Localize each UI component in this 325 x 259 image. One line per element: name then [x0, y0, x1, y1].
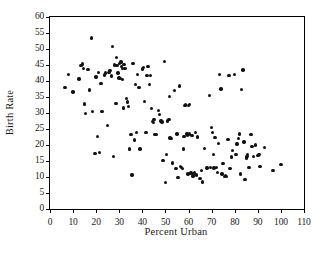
data-point [239, 172, 242, 175]
y-axis-tick [46, 17, 50, 18]
y-axis-tick-label: 55 [35, 26, 44, 39]
x-axis-title-text: Percent Urban [145, 226, 208, 237]
x-axis-tick [165, 209, 166, 213]
data-point [240, 88, 243, 91]
data-point [234, 153, 237, 156]
y-axis-tick [46, 97, 50, 98]
data-point [218, 73, 221, 76]
data-point [211, 131, 214, 134]
y-axis-tick-label: 10 [35, 170, 44, 183]
data-point [203, 147, 206, 150]
data-point [170, 137, 173, 140]
y-axis-tick-label: 35 [35, 90, 44, 103]
data-point [271, 169, 274, 172]
data-point [163, 60, 166, 63]
plot-area: 0510152025303540455055600102030405060708… [49, 16, 305, 210]
x-axis-title: Percent Urban [49, 226, 303, 237]
data-point [81, 62, 84, 65]
data-point [173, 89, 176, 92]
x-axis-tick [304, 209, 305, 213]
x-axis-tick [258, 209, 259, 213]
data-point [196, 135, 199, 138]
data-point [155, 133, 158, 136]
x-axis-tick [50, 209, 51, 213]
y-axis-title: Birth Rate [2, 0, 18, 224]
data-point [77, 77, 80, 80]
data-point [230, 155, 233, 158]
data-point [90, 36, 93, 39]
data-point [88, 88, 91, 91]
data-point [249, 133, 252, 136]
data-point [188, 103, 191, 106]
data-point [238, 132, 241, 135]
data-point [93, 152, 96, 155]
data-point [143, 100, 146, 103]
y-axis-tick [46, 177, 50, 178]
data-point [122, 63, 125, 66]
data-point [252, 155, 255, 158]
y-axis-tick [46, 145, 50, 146]
data-point [142, 66, 145, 69]
data-point [175, 132, 178, 135]
data-point [152, 118, 155, 121]
y-axis-tick-label: 30 [35, 106, 44, 119]
x-axis-tick [235, 209, 236, 213]
data-point [148, 83, 151, 86]
data-point [190, 134, 193, 137]
data-point [200, 169, 203, 172]
data-point [174, 167, 177, 170]
data-point [248, 166, 251, 169]
y-axis-tick-label: 25 [35, 122, 44, 135]
data-point [246, 153, 249, 156]
y-axis-tick [46, 193, 50, 194]
data-point [96, 135, 99, 138]
data-point [97, 71, 100, 74]
data-point [219, 87, 222, 90]
data-point [194, 131, 197, 134]
data-point [131, 62, 134, 65]
y-axis-tick [46, 33, 50, 34]
data-point [182, 147, 185, 150]
data-point [152, 121, 155, 124]
x-axis-tick [119, 209, 120, 213]
data-point [130, 173, 133, 176]
data-point [215, 166, 218, 169]
data-point [98, 151, 101, 154]
data-point [122, 106, 125, 109]
data-point [129, 133, 132, 136]
data-point [146, 65, 149, 68]
data-point [83, 102, 86, 105]
data-point [94, 75, 97, 78]
data-point [231, 149, 234, 152]
data-point [235, 142, 238, 145]
y-axis-tick-label: 15 [35, 154, 44, 167]
data-point [116, 71, 119, 74]
data-point [82, 67, 85, 70]
y-axis-tick-label: 20 [35, 138, 44, 151]
data-point [258, 165, 261, 168]
data-point [242, 140, 245, 143]
data-point [112, 155, 115, 158]
data-point [208, 94, 211, 97]
data-point [201, 180, 204, 183]
y-axis-tick-label: 50 [35, 42, 44, 55]
data-point [160, 120, 163, 123]
y-axis-title-text: Birth Rate [5, 89, 16, 134]
data-point [84, 112, 87, 115]
data-points-layer [50, 17, 304, 209]
data-point [279, 163, 282, 166]
data-point [227, 74, 230, 77]
x-axis-tick [96, 209, 97, 213]
data-point [178, 84, 181, 87]
data-point [233, 73, 236, 76]
data-point [216, 171, 219, 174]
data-point [167, 118, 170, 121]
y-axis-tick-label: 0 [39, 202, 44, 215]
y-axis-tick [46, 161, 50, 162]
data-point [115, 56, 118, 59]
data-point [150, 107, 153, 110]
data-point [128, 147, 131, 150]
data-point [99, 82, 102, 85]
data-point [111, 45, 114, 48]
data-point [110, 74, 113, 77]
